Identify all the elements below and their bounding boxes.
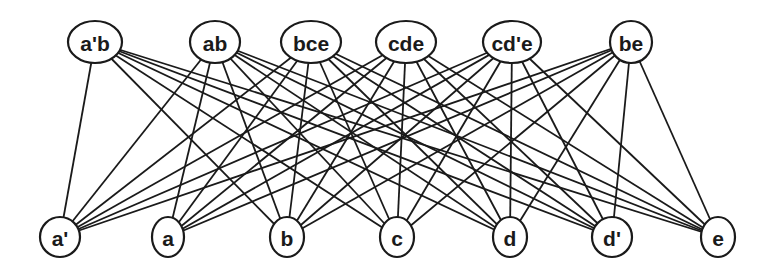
node-label: cd'e [491,32,532,55]
node-label: e [712,227,724,250]
node-label: d [504,227,517,250]
node-label: d' [603,227,621,250]
node-label: a' [52,227,69,250]
graph-canvas: a'babbcecdecd'ebea'abcdd'e [0,0,775,280]
node-layer: a'babbcecdecd'ebea'abcdd'e [40,21,735,257]
bottom-node: b [270,217,304,257]
edge [510,42,631,237]
edge [60,42,512,237]
bottom-node: d' [592,217,632,257]
node-label: bce [293,32,329,55]
top-node: bce [281,21,341,63]
edge [397,42,631,237]
node-label: a'b [80,32,110,55]
edge [510,42,512,237]
edge [60,42,95,237]
top-node: ab [190,21,240,63]
node-label: b [281,227,294,250]
edge [95,42,510,237]
bottom-node: c [380,217,414,257]
top-node: a'b [68,21,122,63]
top-node: cde [376,21,436,63]
top-node: cd'e [483,21,541,63]
bipartite-graph-diagram: a'babbcecdecd'ebea'abcdd'e [0,0,775,280]
bottom-node: e [701,217,735,257]
edge [60,42,631,237]
node-label: ab [203,32,228,55]
node-label: cde [388,32,424,55]
node-label: be [619,32,644,55]
node-label: a [162,227,174,250]
bottom-node: a [152,217,184,257]
bottom-node: d [493,217,527,257]
node-label: c [391,227,403,250]
edge-layer [60,42,718,237]
bottom-node: a' [40,217,80,257]
top-node: be [610,21,652,63]
